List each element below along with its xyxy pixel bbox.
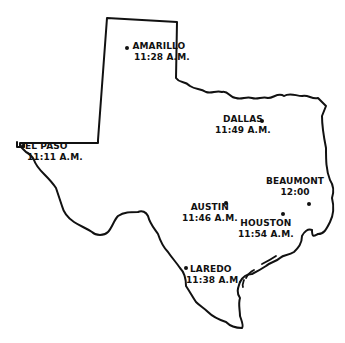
city-label-houston: HOUSTON 11:54 A.M.	[238, 218, 294, 240]
city-name: LAREDO	[190, 264, 242, 275]
city-name: DALLAS	[215, 114, 271, 125]
city-time: 11:54 A.M.	[238, 229, 294, 240]
city-label-laredo: LAREDO 11:38 A.M.	[190, 264, 242, 286]
houston-dot	[281, 212, 285, 216]
city-time: 11:28 A.M.	[128, 52, 190, 63]
beaumont-dot	[307, 202, 311, 206]
city-name: BEAUMONT	[266, 176, 324, 187]
city-time: 11:38 A.M.	[186, 275, 242, 286]
city-time: 11:11 A.M.	[25, 152, 83, 163]
padre-island-3	[243, 280, 244, 287]
city-name: EL PASO	[25, 141, 83, 152]
city-label-beaumont: BEAUMONT 12:00	[266, 176, 324, 198]
city-name: HOUSTON	[238, 218, 294, 229]
city-label-el-paso: EL PASO 11:11 A.M.	[25, 141, 83, 163]
city-time: 11:46 A.M.	[182, 213, 238, 224]
city-name: AUSTIN	[182, 202, 238, 213]
city-label-austin: AUSTIN 11:46 A.M.	[182, 202, 238, 224]
laredo-dot	[184, 266, 188, 270]
city-time: 12:00	[266, 187, 324, 198]
city-label-dallas: DALLAS 11:49 A.M.	[215, 114, 271, 136]
texas-outline	[20, 18, 333, 328]
city-time: 11:49 A.M.	[215, 125, 271, 136]
city-label-amarillo: AMARILLO 11:28 A.M.	[128, 41, 190, 63]
city-name: AMARILLO	[128, 41, 190, 52]
